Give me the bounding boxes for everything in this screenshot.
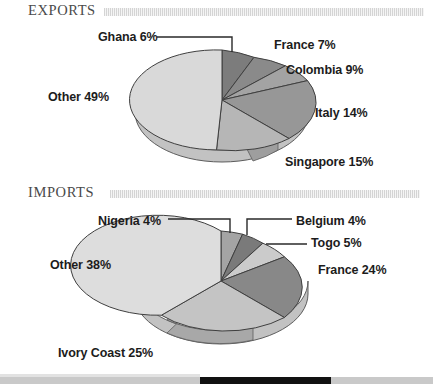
imports-title: IMPORTS [28,184,94,201]
exports-label-ghana: Ghana 6% [98,30,158,44]
imports-label-ivory-coast: Ivory Coast 25% [58,346,153,360]
exports-slice-other[interactable] [130,50,222,150]
imports-header-rule [110,190,420,198]
exports-section-header: EXPORTS [0,2,433,22]
bottom-band-dark-segment [200,377,331,384]
exports-label-singapore: Singapore 15% [285,155,373,169]
imports-label-nigeria: Nigeria 4% [98,214,161,228]
imports-label-france: France 24% [318,263,386,277]
imports-label-belgium: Belgium 4% [296,214,366,228]
exports-label-france: France 7% [274,38,336,52]
exports-label-colombia: Colombia 9% [286,63,363,77]
imports-label-other: Other 38% [50,258,111,272]
imports-pie-chart: Nigeria 4% Belgium 4% Togo 5% France 24%… [0,202,433,378]
exports-label-italy: Italy 14% [315,106,368,120]
exports-label-other: Other 49% [48,90,109,104]
exports-title: EXPORTS [28,2,96,19]
imports-section-header: IMPORTS [0,184,433,204]
imports-label-togo: Togo 5% [311,236,361,250]
exports-header-rule [104,8,424,16]
exports-pie-chart: Ghana 6% France 7% Colombia 9% Italy 14%… [0,20,433,184]
imports-belgium-leader-line [247,219,292,235]
